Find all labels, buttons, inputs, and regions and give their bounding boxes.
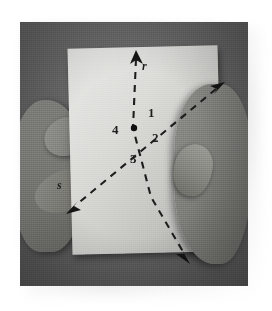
screenshot-root: 1 2 3 4 r s bbox=[0, 0, 272, 311]
photograph: 1 2 3 4 r s bbox=[20, 22, 248, 286]
